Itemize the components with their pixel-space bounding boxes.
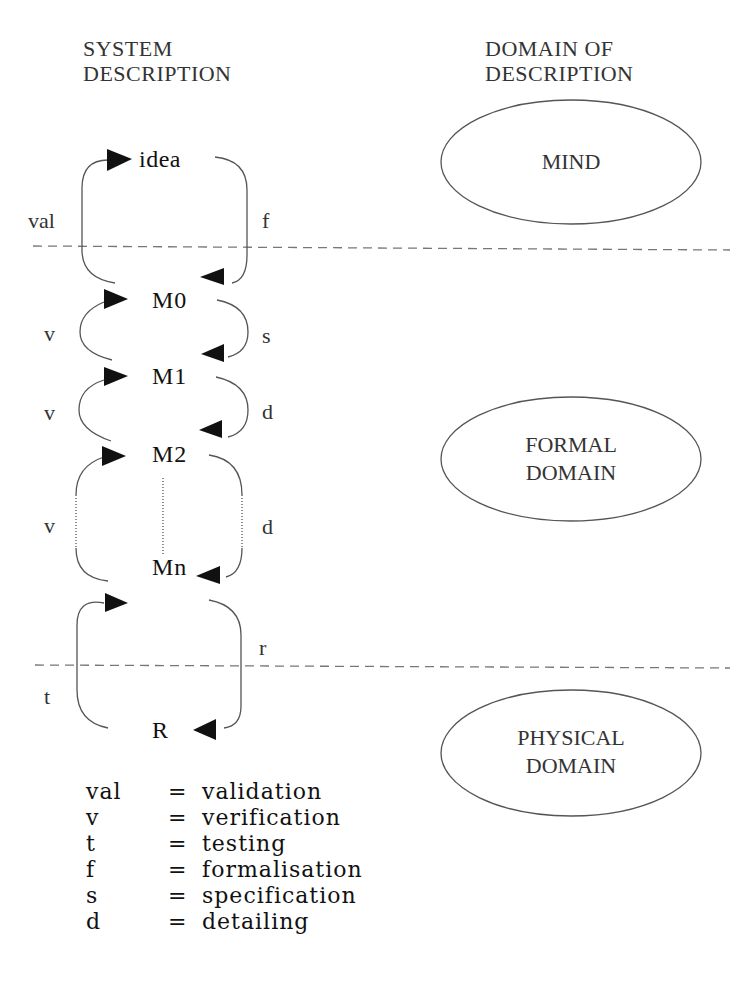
legend-equals: =	[168, 831, 202, 857]
legend-row-f: f = formalisation	[86, 857, 363, 883]
right-header: DOMAIN OF DESCRIPTION	[485, 36, 634, 86]
legend-meaning: formalisation	[202, 857, 363, 883]
legend-row-t: t = testing	[86, 831, 363, 857]
v2-curve	[79, 380, 111, 441]
node-m2: M2	[152, 441, 187, 467]
legend-meaning: testing	[202, 831, 286, 857]
legend-meaning: validation	[202, 779, 322, 805]
arrow-to-m1-left	[104, 367, 128, 386]
val-curve	[82, 160, 115, 283]
domain-physical-line-2: DOMAIN	[441, 752, 701, 780]
arrow-to-m2-left	[102, 446, 126, 466]
v3-curve-bottom	[76, 548, 108, 581]
arrow-to-mn-left	[105, 593, 128, 612]
domain-formal: FORMAL DOMAIN	[441, 431, 701, 487]
arrow-to-r	[193, 719, 216, 740]
edge-label-s: s	[262, 324, 271, 348]
legend-key: s	[86, 883, 168, 909]
d2-curve-top	[209, 455, 242, 495]
edge-label-v1: v	[44, 322, 55, 346]
edge-label-d2: d	[262, 515, 273, 539]
legend-equals: =	[168, 805, 202, 831]
legend-key: t	[86, 831, 168, 857]
left-header: SYSTEM DESCRIPTION	[83, 36, 232, 86]
legend-key: d	[86, 909, 168, 935]
edge-label-val: val	[28, 209, 55, 233]
arrow-to-mn-right	[196, 566, 220, 584]
mind-formal-boundary	[33, 246, 730, 250]
v3-curve-top	[76, 457, 104, 495]
d2-curve-bottom	[226, 548, 242, 577]
edge-label-t: t	[44, 685, 50, 709]
r-curve	[209, 600, 241, 728]
legend-row-d: d = detailing	[86, 909, 363, 935]
node-r: R	[152, 717, 169, 743]
legend-meaning: verification	[202, 805, 341, 831]
formal-physical-boundary	[35, 665, 730, 668]
node-mn: Mn	[152, 554, 187, 580]
legend-equals: =	[168, 883, 202, 909]
arrow-to-m0-right	[200, 268, 224, 285]
arrow-to-m2-right	[199, 420, 222, 438]
domain-formal-line-1: FORMAL	[441, 431, 701, 459]
legend-key: val	[86, 779, 168, 805]
node-m0: M0	[152, 287, 187, 313]
legend: val = validation v = verification t = te…	[86, 779, 363, 935]
legend-row-s: s = specification	[86, 883, 363, 909]
left-header-line-1: SYSTEM	[83, 36, 232, 61]
domain-mind-line-1: MIND	[441, 148, 701, 176]
domain-mind: MIND	[441, 148, 701, 176]
arrow-to-m0-left	[104, 289, 128, 309]
node-m1: M1	[152, 363, 187, 389]
arrow-to-m1-right	[201, 344, 224, 362]
right-header-line-1: DOMAIN OF	[485, 36, 634, 61]
legend-equals: =	[168, 857, 202, 883]
right-header-line-2: DESCRIPTION	[485, 61, 634, 86]
legend-equals: =	[168, 909, 202, 935]
f-curve	[215, 157, 247, 283]
edge-label-f: f	[262, 209, 269, 233]
legend-equals: =	[168, 779, 202, 805]
legend-key: v	[86, 805, 168, 831]
domain-formal-line-2: DOMAIN	[441, 459, 701, 487]
edge-label-r: r	[259, 636, 266, 660]
domain-physical-line-1: PHYSICAL	[441, 724, 701, 752]
domain-physical: PHYSICAL DOMAIN	[441, 724, 701, 780]
v1-curve	[80, 302, 112, 360]
legend-row-val: val = validation	[86, 779, 363, 805]
legend-key: f	[86, 857, 168, 883]
arrow-to-idea	[107, 149, 132, 171]
edge-label-v2: v	[44, 401, 55, 425]
edge-label-d1: d	[262, 400, 273, 424]
node-idea: idea	[139, 146, 181, 172]
left-header-line-2: DESCRIPTION	[83, 61, 232, 86]
legend-meaning: specification	[202, 883, 357, 909]
legend-row-v: v = verification	[86, 805, 363, 831]
legend-meaning: detailing	[202, 909, 309, 935]
edge-label-v3: v	[44, 514, 55, 538]
